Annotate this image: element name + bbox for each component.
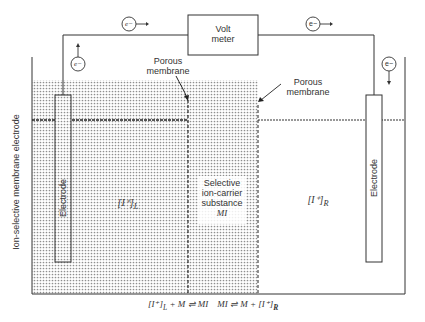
porous-membrane-left-label-line1: Porous bbox=[138, 56, 198, 66]
voltmeter-label-line2: meter bbox=[188, 34, 258, 44]
voltmeter-label-line1: Volt bbox=[188, 24, 258, 34]
carrier-label-line4: MI bbox=[196, 208, 248, 218]
left-concentration-subscript: L bbox=[134, 202, 139, 211]
cell-diagram bbox=[0, 0, 425, 322]
voltmeter-label: Volt meter bbox=[188, 24, 258, 44]
electron-label-top-right: e− bbox=[306, 19, 320, 29]
left-concentration-text: [I⁺] bbox=[118, 197, 134, 208]
porous-membrane-right-label-line1: Porous bbox=[278, 77, 338, 87]
left-electrode-label: Electrode bbox=[58, 168, 68, 228]
equation-left-concentration: [I⁺] bbox=[148, 299, 163, 309]
equation-left-rest: + M ⇌ MI bbox=[167, 299, 208, 309]
equilibrium-equation: [I⁺]L + M ⇌ MI MI ⇌ M + [I⁺]R bbox=[148, 299, 348, 313]
right-concentration-subscript: R bbox=[324, 199, 329, 208]
carrier-label-line1: Selective bbox=[196, 178, 248, 188]
equation-right-part: MI ⇌ M + [I⁺] bbox=[217, 299, 273, 309]
equation-right-subscript: R bbox=[273, 303, 278, 312]
right-concentration-text: [I⁺] bbox=[307, 194, 323, 205]
ion-selective-electrode-label: Ion-selective membrane electrode bbox=[11, 107, 21, 257]
electron-label-top-left: e− bbox=[122, 19, 136, 29]
carrier-label-line2: ion-carrier bbox=[196, 188, 248, 198]
porous-membrane-right-label-line2: membrane bbox=[278, 87, 338, 97]
porous-membrane-right-label: Porous membrane bbox=[278, 77, 338, 97]
carrier-label-line3: substance bbox=[196, 198, 248, 208]
electron-label-left: e− bbox=[71, 59, 85, 69]
carrier-substance-label: Selective ion-carrier substance MI bbox=[196, 178, 248, 218]
right-concentration-label: [I⁺]R bbox=[298, 195, 338, 209]
right-electrode-label: Electrode bbox=[369, 148, 379, 208]
left-concentration-label: [I⁺]L bbox=[108, 198, 148, 212]
porous-membrane-left-label-line2: membrane bbox=[138, 66, 198, 76]
electron-label-right: e− bbox=[382, 59, 396, 69]
porous-membrane-left-label: Porous membrane bbox=[138, 56, 198, 76]
